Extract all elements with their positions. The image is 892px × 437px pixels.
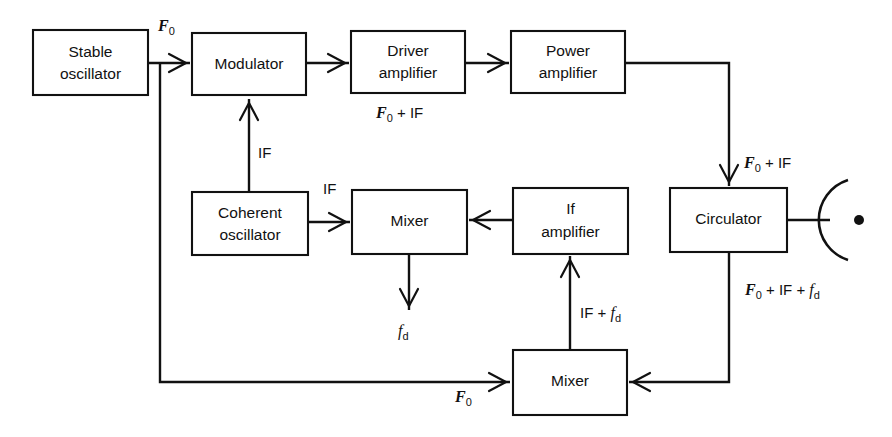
block-label-line1: Coherent [218, 204, 282, 221]
signal-label-f0-if-fd-return: F0 + IF + fd [744, 281, 820, 301]
block-diagram-canvas: Stable oscillator Modulator Driver ampli… [0, 0, 892, 437]
block-stable-oscillator[interactable]: Stable oscillator [33, 30, 148, 95]
block-label-line1: Mixer [391, 212, 429, 229]
signal-label-f0-plus-if-circulator: F0 + IF [743, 154, 791, 174]
block-coherent-oscillator[interactable]: Coherent oscillator [192, 192, 308, 255]
block-label-line2: amplifier [379, 64, 438, 81]
wire-circulator-to-bottom-mixer [629, 252, 729, 391]
block-label-line1: If [566, 200, 575, 217]
block-label-line1: Stable [69, 43, 113, 60]
block-label-line1: Circulator [695, 210, 761, 227]
block-circulator[interactable]: Circulator [670, 188, 787, 252]
block-label-line2: oscillator [60, 65, 121, 82]
wire-modulator-to-driver-amplifier [306, 54, 349, 72]
wire-coherent-osc-to-modulator [240, 99, 258, 192]
block-modulator[interactable]: Modulator [192, 33, 306, 95]
block-label-line1: Modulator [215, 55, 284, 72]
wire-bottom-mixer-to-if-amplifier [561, 256, 579, 350]
signal-label-f0-plus-if-driver: F0 + IF [375, 104, 423, 124]
wire-stable-osc-to-modulator [148, 54, 190, 72]
wire-driver-amplifier-to-power-amplifier [465, 54, 509, 72]
signal-label-if-plus-fd: IF + fd [580, 304, 621, 324]
block-label-line2: amplifier [539, 64, 598, 81]
block-driver-amplifier[interactable]: Driver amplifier [351, 31, 465, 93]
signal-label-f0-top: F0 [157, 17, 175, 37]
block-diagram-svg: Stable oscillator Modulator Driver ampli… [0, 0, 892, 437]
wire-if-amplifier-to-middle-mixer [469, 211, 513, 229]
block-label-line2: amplifier [541, 223, 600, 240]
block-if-amplifier[interactable]: If amplifier [513, 188, 628, 254]
wire-middle-mixer-doppler-output [400, 254, 418, 310]
signal-label-f0-bottom-mixer: F0 [454, 388, 472, 408]
block-mixer-bottom[interactable]: Mixer [513, 350, 627, 415]
block-label-line2: oscillator [219, 226, 280, 243]
wire-coherent-osc-to-middle-mixer [308, 213, 350, 231]
block-label-line1: Mixer [551, 372, 589, 389]
block-mixer-middle[interactable]: Mixer [352, 190, 467, 254]
block-power-amplifier[interactable]: Power amplifier [511, 31, 625, 93]
block-label-line1: Power [546, 42, 590, 59]
signal-label-fd-doppler: fd [398, 322, 409, 342]
wire-power-amplifier-to-circulator [625, 63, 738, 186]
signal-label-if-coherent: IF [323, 180, 336, 197]
signal-label-if-modulator: IF [258, 144, 271, 161]
block-label-line1: Driver [387, 42, 428, 59]
